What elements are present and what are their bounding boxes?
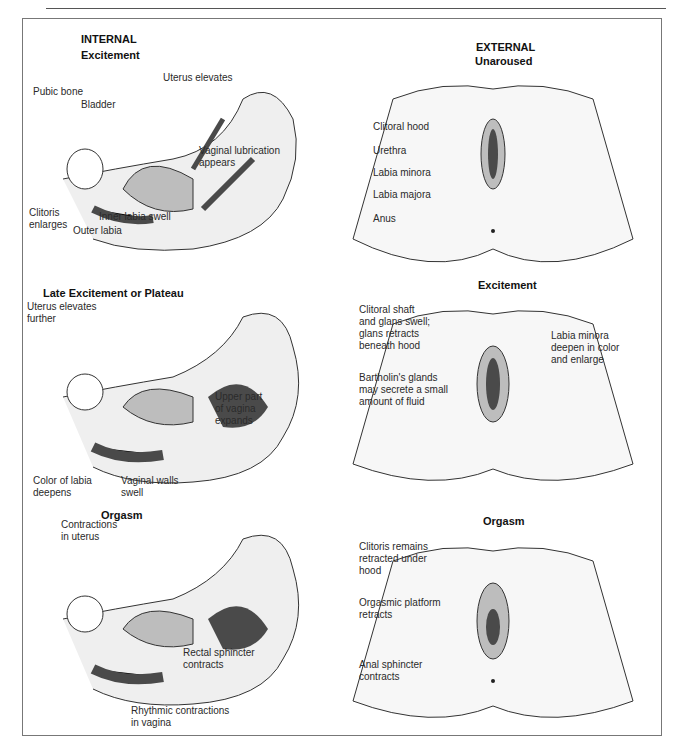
diagram-label: Urethra: [373, 145, 406, 157]
diagram-label: Bartholin's glands may secrete a small a…: [359, 372, 448, 408]
diagram-label: Labia minora: [373, 167, 431, 179]
diagram-label: Uterus elevates further: [27, 301, 96, 325]
internal-plateau-panel: Uterus elevates further Upper part of va…: [23, 297, 323, 497]
internal-orgasm-panel: Contractions in uterus Rectal sphincter …: [23, 519, 323, 729]
internal-excitement-panel: Uterus elevates Pubic bone Bladder Vagin…: [23, 59, 323, 269]
diagram-label: Clitoral shaft and glans swell; glans re…: [359, 304, 430, 352]
diagram-label: Labia majora: [373, 189, 431, 201]
cross-section-schematic: [23, 297, 323, 497]
diagram-label: Outer labia: [73, 225, 122, 237]
diagram-label: Anus: [373, 213, 396, 225]
diagram-label: Labia minora deepen in color and enlarge: [551, 330, 619, 366]
diagram-label: Rhythmic contractions in vagina: [131, 705, 229, 729]
column-heading-internal: INTERNAL: [81, 33, 137, 45]
diagram-label: Clitoral hood: [373, 121, 429, 133]
cross-section-schematic: [23, 519, 323, 729]
diagram-label: Uterus elevates: [163, 72, 232, 84]
external-excitement-panel: Clitoral shaft and glans swell; glans re…: [333, 294, 653, 499]
diagram-label: Vaginal lubrication appears: [199, 145, 280, 169]
diagram-label: Inner labia swell: [99, 211, 171, 223]
diagram-label: Clitoris enlarges: [29, 207, 67, 231]
column-heading-external: EXTERNAL: [476, 41, 535, 53]
diagram-label: Color of labia deepens: [33, 475, 92, 499]
external-orgasm-panel: Clitoris remains retracted under hood Or…: [333, 531, 653, 731]
diagram-label: Rectal sphincter contracts: [183, 647, 255, 671]
figure-frame: INTERNAL EXTERNAL Excitement Uterus elev…: [22, 18, 662, 736]
top-rule: [46, 8, 666, 9]
diagram-label: Anal sphincter contracts: [359, 659, 422, 683]
diagram-label: Clitoris remains retracted under hood: [359, 541, 428, 577]
external-unaroused-panel: Clitoral hood Urethra Labia minora Labia…: [333, 69, 653, 279]
external-stage-2-title: Excitement: [478, 279, 537, 291]
diagram-label: Bladder: [81, 99, 115, 111]
external-stage-1-title: Unaroused: [475, 55, 532, 67]
diagram-label: Pubic bone: [33, 86, 83, 98]
diagram-label: Upper part of vagina expands: [215, 391, 262, 427]
diagram-label: Vaginal walls swell: [121, 475, 179, 499]
diagram-label: Contractions in uterus: [61, 519, 117, 543]
external-stage-3-title: Orgasm: [483, 515, 525, 527]
diagram-label: Orgasmic platform retracts: [359, 597, 441, 621]
